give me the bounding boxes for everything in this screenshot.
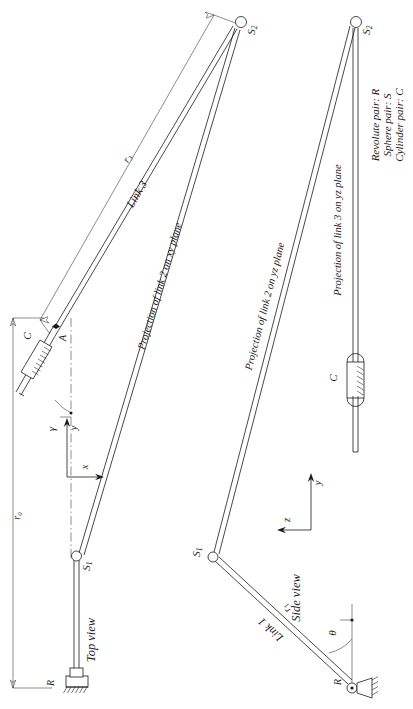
axis-label-x-top: x — [79, 464, 90, 470]
label-r-top: R — [45, 680, 56, 687]
caption-side-view: Side view — [289, 574, 303, 622]
pair-legend: Revolute pair: R Sphere pair: S Cylinder… — [369, 88, 405, 163]
caption-top-view: Top view — [84, 617, 98, 662]
figure-canvas: r0 R S1 Proj — [0, 0, 413, 709]
label-c-top: C — [21, 332, 33, 340]
legend-item-cylinder: Cylinder pair: C — [393, 88, 405, 162]
axis-label-y-side: y — [312, 480, 323, 486]
joint-s2-side — [351, 17, 362, 28]
label-theta: θ — [326, 630, 338, 636]
label-point-a: A — [57, 334, 68, 342]
legend-item-sphere: Sphere pair: S — [381, 93, 393, 157]
legend-item-revolute: Revolute pair: R — [369, 88, 381, 162]
joint-s1-side — [208, 552, 218, 562]
joint-s2-top — [236, 17, 247, 28]
axis-label-z-side: z — [281, 518, 292, 523]
joint-s1-top — [72, 551, 82, 561]
label-projection-link3-yz: Projection of link 3 on yz plane — [332, 164, 343, 297]
label-r-side: R — [332, 678, 343, 686]
linkage-diagram: r0 R S1 Proj — [0, 0, 413, 709]
label-c-side: C — [327, 374, 339, 382]
label-gamma: γ — [45, 426, 57, 431]
axis-label-y-top: y — [68, 425, 79, 431]
